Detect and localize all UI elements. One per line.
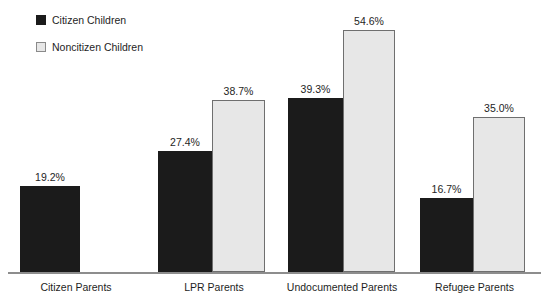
value-label-lpr-parents-citizen-children: 27.4% (158, 136, 212, 148)
x-axis-baseline (8, 272, 541, 274)
bar-refugee-parents-citizen-children (420, 198, 473, 272)
value-label-undocumented-parents-noncitizen-children: 54.6% (343, 15, 395, 27)
value-label-undocumented-parents-citizen-children: 39.3% (288, 83, 343, 95)
bar-lpr-parents-noncitizen-children (212, 100, 265, 272)
bar-undocumented-parents-citizen-children (288, 98, 343, 272)
category-label-citizen-parents: Citizen Parents (0, 281, 152, 294)
bar-undocumented-parents-noncitizen-children (343, 30, 395, 272)
category-label-refugee-parents: Refugee Parents (408, 281, 541, 294)
category-label-undocumented-parents: Undocumented Parents (276, 281, 408, 294)
bar-refugee-parents-noncitizen-children (473, 117, 525, 272)
bar-lpr-parents-citizen-children (158, 151, 212, 272)
bar-citizen-parents-citizen-children (20, 186, 80, 272)
bar-chart: Citizen Children Noncitizen Children 19.… (0, 0, 551, 306)
value-label-lpr-parents-noncitizen-children: 38.7% (212, 85, 265, 97)
value-label-refugee-parents-noncitizen-children: 35.0% (473, 102, 525, 114)
category-label-lpr-parents: LPR Parents (152, 281, 276, 294)
value-label-refugee-parents-citizen-children: 16.7% (420, 183, 473, 195)
value-label-citizen-parents-citizen-children: 19.2% (20, 171, 80, 183)
plot-area: 19.2%27.4%38.7%39.3%54.6%16.7%35.0% Citi… (0, 0, 551, 306)
